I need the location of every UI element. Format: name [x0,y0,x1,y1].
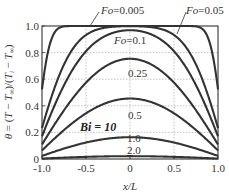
curve-label: 2.0 [127,144,141,156]
chart: -1.0-0.500.51.0 00.20.40.60.81.0 Fo=0.00… [0,0,229,196]
leader-line [177,12,186,34]
curve-label: 1.0 [127,132,141,144]
y-tick-label: 0 [34,153,40,165]
bi-annotation: Bi = 10 [79,120,116,134]
x-tick-label: 0 [127,162,133,174]
x-tick-label: 0.5 [167,162,181,174]
curve-label: 0.25 [128,67,148,79]
y-tick-label: 0.6 [25,73,39,85]
leader-line [90,12,99,26]
y-tick-label: 0.4 [25,100,39,112]
curve-label: Fo=0.05 [185,4,224,16]
y-tick-label: 1.0 [25,20,39,32]
x-tick-label: -0.5 [77,162,95,174]
y-tick-label: 0.8 [25,47,39,59]
x-tick-label: 1.0 [211,162,225,174]
x-axis-label: x/L [122,180,137,192]
curve-label: 0.5 [128,109,142,121]
y-tick-label: 0.2 [25,126,39,138]
y-axis-label: θ = (T − T∞)/(Ti − T∞) [2,44,16,139]
curve-label: Fo=0.005 [100,4,145,16]
curve-label: Fo=0.1 [113,34,146,46]
